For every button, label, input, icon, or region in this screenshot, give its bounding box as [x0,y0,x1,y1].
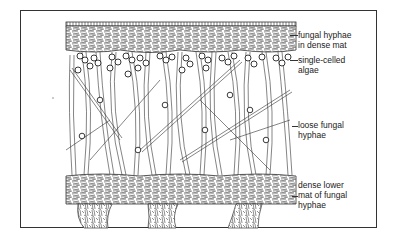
label-lower-mat: dense lower mat of fungal hyphae [298,180,347,210]
lower-dense-mat [66,174,296,228]
leader-algae [290,60,298,61]
label-loose-hyphae: loose fungal hyphae [298,120,344,140]
label-algae: single-celled algae [298,55,345,75]
label-upper-mat: fungal hyphae in dense mat [298,30,351,50]
leader-upper-mat [290,35,298,36]
speck [52,97,54,99]
upper-dense-mat [66,22,296,53]
